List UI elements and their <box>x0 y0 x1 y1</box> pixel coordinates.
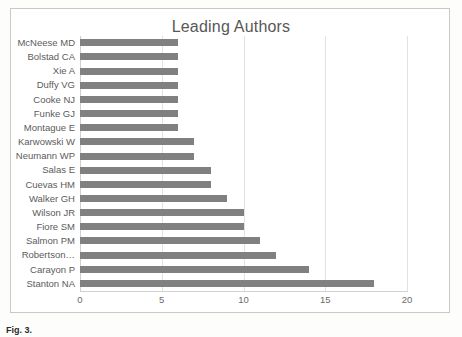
y-axis-category-labels: McNeese MDBolstad CAXie ADuffy VGCooke N… <box>11 36 78 291</box>
bar[interactable] <box>80 167 211 174</box>
bar-row <box>80 192 407 206</box>
figure-container: Leading Authors McNeese MDBolstad CAXie … <box>0 0 462 337</box>
bar-row <box>80 107 407 121</box>
category-label: Karwowski W <box>11 135 78 149</box>
bar-row <box>80 277 407 291</box>
bar[interactable] <box>80 153 194 160</box>
x-tick-label: 5 <box>159 294 164 305</box>
category-label: Carayon P <box>11 263 78 277</box>
x-axis-line <box>80 291 408 292</box>
bar[interactable] <box>80 181 211 188</box>
x-tick-label: 0 <box>77 294 82 305</box>
bar-row <box>80 248 407 262</box>
bar[interactable] <box>80 266 309 273</box>
figure-caption-label: Fig. 3. <box>6 325 32 335</box>
category-label: Neumann WP <box>11 149 78 163</box>
chart-title: Leading Authors <box>11 18 451 36</box>
bar-row <box>80 149 407 163</box>
bar[interactable] <box>80 68 178 75</box>
category-label: Salmon PM <box>11 234 78 248</box>
bar[interactable] <box>80 82 178 89</box>
bar[interactable] <box>80 138 194 145</box>
chart-frame: Leading Authors McNeese MDBolstad CAXie … <box>10 8 450 313</box>
category-label: Stanton NA <box>11 277 78 291</box>
category-label: Robertson… <box>11 248 78 262</box>
bar[interactable] <box>80 280 374 287</box>
figure-caption: Fig. 3. <box>6 325 446 337</box>
bar[interactable] <box>80 110 178 117</box>
category-label: Wilson JR <box>11 206 78 220</box>
category-label: Duffy VG <box>11 78 78 92</box>
bar[interactable] <box>80 96 178 103</box>
bar-row <box>80 263 407 277</box>
bar[interactable] <box>80 124 178 131</box>
category-label: Cuevas HM <box>11 178 78 192</box>
bar[interactable] <box>80 195 227 202</box>
category-label: Funke GJ <box>11 107 78 121</box>
bar[interactable] <box>80 53 178 60</box>
bar-row <box>80 234 407 248</box>
bar[interactable] <box>80 39 178 46</box>
bar-row <box>80 163 407 177</box>
bar-series <box>80 36 407 291</box>
category-label: McNeese MD <box>11 36 78 50</box>
x-axis-tick-labels: 05101520 <box>80 294 407 310</box>
category-label: Cooke NJ <box>11 93 78 107</box>
bar-row <box>80 64 407 78</box>
bar[interactable] <box>80 237 260 244</box>
bar-row <box>80 121 407 135</box>
gridline-20 <box>407 36 408 291</box>
bar[interactable] <box>80 223 244 230</box>
bar[interactable] <box>80 252 276 259</box>
bar-row <box>80 178 407 192</box>
x-tick-label: 15 <box>320 294 331 305</box>
x-tick-label: 20 <box>402 294 413 305</box>
plot-area <box>80 36 407 291</box>
bar-row <box>80 36 407 50</box>
bar-row <box>80 93 407 107</box>
bar-row <box>80 50 407 64</box>
category-label: Xie A <box>11 64 78 78</box>
bar-row <box>80 135 407 149</box>
bar[interactable] <box>80 209 244 216</box>
category-label: Fiore SM <box>11 220 78 234</box>
category-label: Bolstad CA <box>11 50 78 64</box>
category-label: Montague E <box>11 121 78 135</box>
category-label: Walker GH <box>11 192 78 206</box>
bar-row <box>80 206 407 220</box>
x-tick-label: 10 <box>238 294 249 305</box>
bar-row <box>80 78 407 92</box>
bar-row <box>80 220 407 234</box>
category-label: Salas E <box>11 163 78 177</box>
